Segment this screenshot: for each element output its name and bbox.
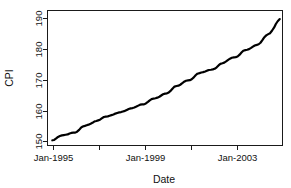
y-axis-title: CPI: [3, 69, 15, 87]
y-tick-label: 150: [33, 134, 44, 150]
x-tick-label: Jan-1999: [126, 152, 166, 163]
y-tick-label: 190: [33, 11, 44, 27]
x-axis-title: Date: [153, 173, 175, 185]
y-tick-label: 160: [33, 104, 44, 120]
cpi-line-chart: 150160170180190 Jan-1995Jan-1999Jan-2003…: [0, 0, 291, 188]
y-tick-label: 170: [33, 73, 44, 89]
chart-page: 150160170180190 Jan-1995Jan-1999Jan-2003…: [0, 0, 291, 188]
y-tick-label: 180: [33, 42, 44, 58]
x-tick-label: Jan-1995: [34, 152, 74, 163]
x-tick-label: Jan-2003: [218, 152, 258, 163]
x-axis-tick-labels: Jan-1995Jan-1999Jan-2003: [34, 152, 258, 163]
